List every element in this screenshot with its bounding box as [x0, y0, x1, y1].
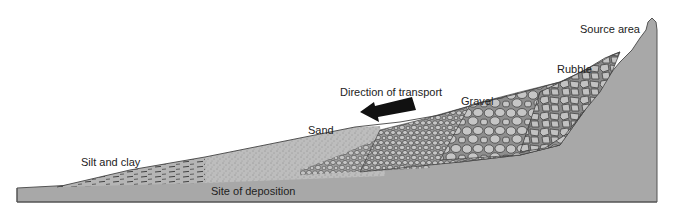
label-gravel: Gravel	[461, 95, 493, 107]
label-sand: Sand	[308, 124, 334, 136]
label-rubble: Rubble	[557, 63, 592, 75]
label-direction-of-transport: Direction of transport	[340, 86, 442, 98]
label-site-of-deposition: Site of deposition	[211, 185, 295, 197]
label-source-area: Source area	[580, 23, 640, 35]
transport-arrow	[360, 97, 416, 122]
label-silt-and-clay: Silt and clay	[81, 156, 140, 168]
cross-section-diagram	[0, 0, 674, 215]
